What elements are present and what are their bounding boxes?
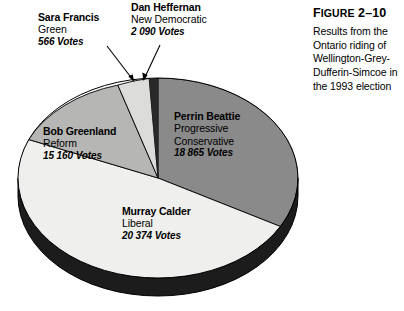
slice-party-name-line1: Reform [43,137,116,149]
slice-label-progressive-conservative: Perrin Beattie Progressive Conservative … [174,110,240,159]
slice-label-liberal: Murray Calder Liberal 20 374 Votes [122,205,191,242]
callout-party-name: New Democratic [131,13,207,25]
callout-candidate-name: Dan Heffernan [131,1,207,13]
slice-party-name-line1: Progressive [174,122,240,134]
slice-votes-value: 15 160 Votes [43,150,116,162]
figure-title-smallcaps: IGURE [321,7,355,19]
leader-line-new-democratic [142,45,160,81]
slice-candidate-name: Perrin Beattie [174,110,240,122]
callout-votes-value: 566 Votes [38,36,99,48]
figure-caption-block: FIGURE 2–10 Results from the Ontario rid… [313,6,404,93]
figure-container: Sara Francis Green 566 Votes Dan Heffern… [0,0,404,311]
figure-title-number: 2–10 [355,6,387,20]
callout-party-name: Green [38,23,99,35]
slice-votes-value: 20 374 Votes [122,230,191,242]
figure-caption-text: Results from the Ontario riding of Welli… [313,25,404,93]
slice-label-reform: Bob Greenland Reform 15 160 Votes [43,125,116,162]
slice-party-name-line2: Conservative [174,135,240,147]
callout-candidate-name: Sara Francis [38,11,99,23]
callout-votes-value: 2 090 Votes [131,26,207,38]
callout-label-new-democratic: Dan Heffernan New Democratic 2 090 Votes [131,1,207,38]
callout-label-green: Sara Francis Green 566 Votes [38,11,99,48]
slice-party-name-line1: Liberal [122,217,191,229]
slice-votes-value: 18 865 Votes [174,147,240,159]
leader-line-green [107,46,135,83]
slice-candidate-name: Murray Calder [122,205,191,217]
figure-title: FIGURE 2–10 [313,6,404,20]
figure-title-initial: F [313,6,321,20]
slice-candidate-name: Bob Greenland [43,125,116,137]
